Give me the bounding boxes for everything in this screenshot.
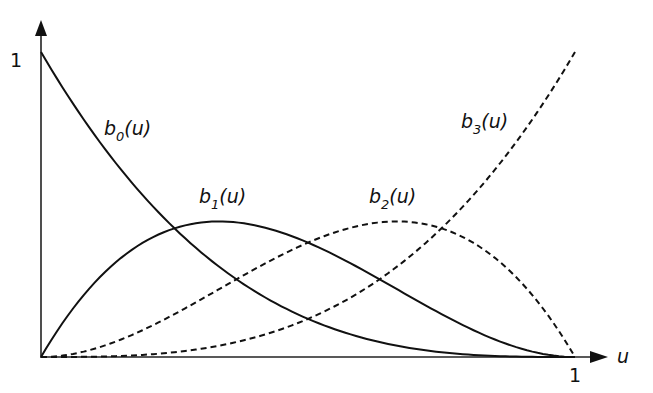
x-tick-1: 1: [569, 364, 581, 386]
label-b0: b0(u): [104, 117, 151, 144]
label-b2: b2(u): [369, 185, 416, 212]
label-b1: b1(u): [199, 185, 246, 212]
x-axis-label: u: [617, 345, 629, 367]
curve-b3: [41, 52, 575, 357]
curve-b2: [41, 221, 575, 357]
label-b3: b3(u): [461, 110, 508, 137]
curve-b0: [41, 52, 575, 357]
x-axis-arrow-icon: [590, 351, 608, 363]
bernstein-basis-chart: 1 1 u b0(u) b1(u) b2(u) b3(u): [0, 0, 653, 393]
y-tick-1: 1: [10, 49, 22, 71]
y-axis-arrow-icon: [35, 20, 47, 36]
